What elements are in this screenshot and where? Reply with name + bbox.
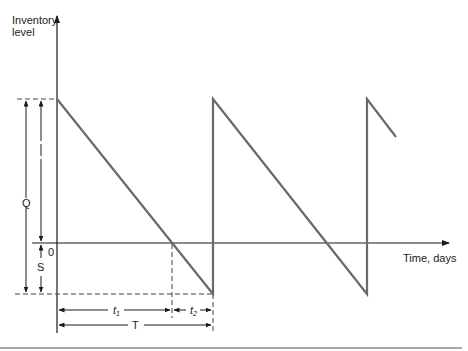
y-axis-label-line1: Inventory (12, 14, 58, 26)
q-label: Q (22, 197, 31, 209)
s-label: S (37, 261, 44, 273)
y-axis-label-line2: level (12, 26, 35, 38)
t1-label-sub: 1 (116, 310, 120, 317)
t-label: T (132, 319, 139, 331)
t1-label: t1 (113, 304, 120, 317)
x-axis-label: Time, days (403, 252, 457, 264)
inventory-diagram: Inventory level Time, days 0 Q (0, 0, 468, 351)
origin-label: 0 (48, 246, 54, 258)
t2-label: t2 (190, 304, 197, 317)
inventory-sawtooth (57, 99, 396, 294)
t2-label-sub: 2 (192, 310, 197, 317)
